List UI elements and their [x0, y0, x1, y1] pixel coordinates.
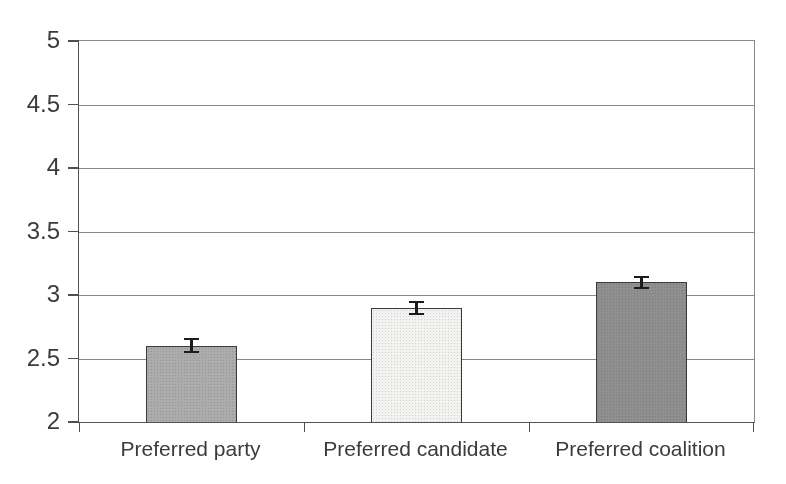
gridline — [79, 168, 754, 169]
y-tick-label: 3 — [47, 282, 60, 306]
bar — [371, 308, 462, 422]
x-axis-tick — [753, 422, 754, 432]
y-axis-tick — [68, 421, 79, 422]
bar — [146, 346, 237, 422]
y-tick-label: 2 — [47, 409, 60, 433]
x-axis-tick — [529, 422, 530, 432]
y-axis-tick — [68, 294, 79, 295]
y-axis-tick — [68, 167, 79, 168]
y-axis-tick — [68, 358, 79, 359]
y-axis-tick — [68, 231, 79, 232]
bar-chart-figure: 22.533.544.55 Preferred partyPreferred c… — [0, 0, 786, 484]
y-tick-label: 2.5 — [27, 346, 60, 370]
y-axis-tick — [68, 104, 79, 105]
error-bar — [409, 301, 424, 315]
y-tick-label: 4.5 — [27, 92, 60, 116]
x-axis-tick — [304, 422, 305, 432]
gridline — [79, 232, 754, 233]
x-category-label: Preferred party — [120, 437, 260, 460]
x-axis-tick — [79, 422, 80, 432]
y-tick-label: 5 — [47, 28, 60, 52]
gridline — [79, 105, 754, 106]
plot-area — [78, 40, 755, 423]
error-bar — [634, 276, 649, 289]
y-axis-tick — [68, 40, 79, 41]
y-tick-label: 4 — [47, 155, 60, 179]
x-category-label: Preferred coalition — [555, 437, 725, 460]
bar — [596, 282, 687, 422]
x-category-label: Preferred candidate — [323, 437, 507, 460]
y-tick-label: 3.5 — [27, 219, 60, 243]
error-bar — [184, 338, 199, 353]
